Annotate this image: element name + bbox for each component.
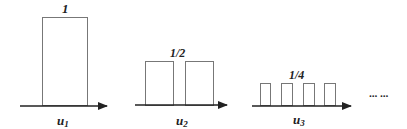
pulse-box [43, 18, 88, 106]
axis-label: u1 [57, 113, 69, 129]
panel-u2: 1/2 u2 [135, 46, 227, 129]
pulse-box [325, 84, 336, 106]
pulse-box [146, 62, 174, 106]
pulse-box [282, 84, 293, 106]
panel-u1: 1 u1 [20, 1, 107, 129]
pulse-box [261, 84, 271, 106]
continuation-ellipsis: ··· ··· [369, 90, 389, 102]
height-label: 1/2 [170, 46, 185, 60]
pulse-sequence-diagram: 1 u1 1/2 u2 1/4 u3 ··· ··· [0, 0, 407, 129]
panel-u3: 1/4 u3 [252, 68, 351, 128]
axis-label: u3 [293, 112, 305, 128]
pulse-box [186, 62, 214, 106]
pulse-box [304, 84, 315, 106]
height-label: 1/4 [289, 68, 304, 82]
height-label: 1 [62, 1, 69, 16]
axis-label: u2 [176, 113, 188, 129]
